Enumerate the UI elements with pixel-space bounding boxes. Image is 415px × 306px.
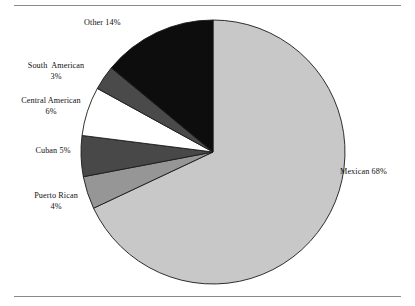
pie-chart-figure: Other 14% South American 3% Central Amer… [0,0,415,306]
pie-slice-label-cuban: Cuban 5% [18,146,88,157]
pie-slice-label-puerto-rican: Puerto Rican 4% [14,191,98,212]
pie-slice-label-mexican: Mexican 68% [340,167,414,178]
pie-slice-label-other: Other 14% [84,18,160,29]
pie-slice-label-central-american: Central American 6% [2,96,100,117]
pie-slice-label-south-american: South American 3% [8,61,104,82]
chart-plot-area: Other 14% South American 3% Central Amer… [0,0,415,306]
